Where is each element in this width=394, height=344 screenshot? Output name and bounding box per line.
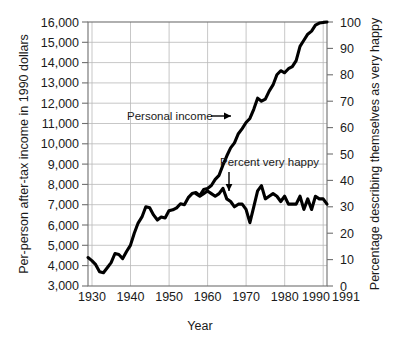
xtick-label: 1940 (117, 290, 145, 304)
right-axis-tick-labels: 100 90 80 70 60 50 40 30 20 10 0 (340, 16, 361, 294)
left-axis-tickmarks (82, 22, 88, 286)
xtick-label: 1930 (78, 290, 106, 304)
y2tick-label: 10 (340, 253, 354, 267)
y-axis-title: Per-person after-tax income in 1990 doll… (17, 34, 31, 274)
ytick-label: 7,000 (48, 198, 79, 212)
ytick-label: 10,000 (41, 137, 79, 151)
y2tick-label: 50 (340, 148, 354, 162)
y2tick-label: 80 (340, 68, 354, 82)
left-axis-tick-labels: 16,000 15,000 14,000 13,000 12,000 11,00… (41, 16, 79, 294)
chart-svg: 16,000 15,000 14,000 13,000 12,000 11,00… (0, 0, 394, 344)
y2tick-label: 40 (340, 174, 354, 188)
y2tick-label: 60 (340, 121, 354, 135)
x-axis-tick-labels: 1930 1940 1950 1960 1970 1980 1990 1991 (78, 290, 360, 304)
ytick-label: 5,000 (48, 239, 79, 253)
ytick-label: 11,000 (42, 117, 79, 131)
xtick-label: 1991 (332, 290, 360, 304)
y2-axis-title: Percentage describing themselves as very… (368, 17, 382, 290)
annotation-percent-very-happy-label: Percent very happy (220, 156, 319, 168)
xtick-label: 1970 (232, 290, 260, 304)
y2tick-label: 30 (340, 200, 354, 214)
ytick-label: 16,000 (41, 16, 79, 30)
y2tick-label: 70 (340, 95, 354, 109)
x-axis-title: Year (187, 319, 212, 333)
right-axis-tickmarks (327, 22, 333, 286)
xtick-label: 1990 (302, 290, 330, 304)
ytick-label: 12,000 (41, 97, 79, 111)
ytick-label: 4,000 (48, 259, 79, 273)
y2tick-label: 100 (340, 16, 361, 30)
y2tick-label: 90 (340, 42, 354, 56)
xtick-label: 1980 (271, 290, 299, 304)
annotation-personal-income-label: Personal income (127, 110, 213, 122)
ytick-label: 9,000 (48, 158, 79, 172)
ytick-label: 6,000 (48, 219, 79, 233)
ytick-label: 14,000 (41, 56, 79, 70)
xtick-label: 1960 (194, 290, 222, 304)
chart-figure: 16,000 15,000 14,000 13,000 12,000 11,00… (0, 0, 394, 344)
ytick-label: 13,000 (41, 76, 79, 90)
ytick-label: 15,000 (41, 36, 79, 50)
ytick-label: 3,000 (48, 279, 79, 293)
y2tick-label: 20 (340, 227, 354, 241)
xtick-label: 1950 (155, 290, 183, 304)
ytick-label: 8,000 (48, 178, 79, 192)
